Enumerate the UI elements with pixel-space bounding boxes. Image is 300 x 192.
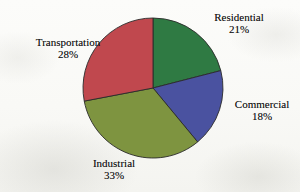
pie-chart: Residential 21% Commercial 18% Industria… xyxy=(0,0,300,192)
slice-label-transportation-value: 28% xyxy=(18,48,118,60)
slice-label-commercial: Commercial 18% xyxy=(224,98,300,123)
slice-label-transportation: Transportation 28% xyxy=(18,36,118,61)
slice-label-residential-name: Residential xyxy=(196,11,282,23)
slice-label-industrial: Industrial 33% xyxy=(74,157,154,182)
slice-label-commercial-name: Commercial xyxy=(224,98,300,110)
slice-label-industrial-name: Industrial xyxy=(74,157,154,169)
slice-label-commercial-value: 18% xyxy=(224,110,300,122)
slice-label-transportation-name: Transportation xyxy=(18,36,118,48)
slice-label-industrial-value: 33% xyxy=(74,169,154,181)
slice-label-residential-value: 21% xyxy=(196,23,282,35)
slice-label-residential: Residential 21% xyxy=(196,11,282,36)
